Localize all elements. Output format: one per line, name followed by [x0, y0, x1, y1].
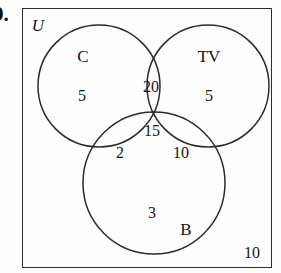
region-count-c-b: 2 — [116, 145, 124, 161]
region-count-c-tv-b: 15 — [144, 123, 160, 139]
set-label-c: C — [77, 48, 88, 65]
region-count-b-only: 3 — [148, 205, 156, 221]
circle-set-tv — [147, 25, 269, 147]
set-label-tv: TV — [198, 48, 221, 65]
region-count-c-only: 5 — [78, 88, 86, 104]
region-count-c-tv: 20 — [143, 79, 159, 95]
set-label-b: B — [180, 221, 191, 238]
region-count-outside: 10 — [244, 245, 260, 261]
universal-set-label: U — [32, 17, 44, 34]
venn-circles-group — [0, 0, 281, 273]
region-count-tv-b: 10 — [173, 145, 189, 161]
venn-diagram-figure: 9. U C TV B 5 20 5 15 2 10 3 10 — [0, 0, 281, 273]
region-count-tv-only: 5 — [205, 88, 213, 104]
circle-set-c — [38, 25, 160, 147]
